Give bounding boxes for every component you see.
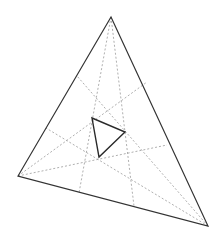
angle-trisectors bbox=[18, 17, 208, 226]
inner-equilateral-triangle bbox=[92, 118, 125, 157]
trisector-line-c-2 bbox=[46, 128, 208, 226]
morley-triangle-diagram bbox=[0, 0, 224, 243]
trisector-line-b-2 bbox=[18, 145, 167, 176]
outer-triangle bbox=[18, 17, 208, 226]
trisector-line-a-2 bbox=[111, 17, 134, 206]
trisector-line-c-1 bbox=[77, 76, 208, 226]
trisector-line-b-1 bbox=[18, 82, 147, 176]
